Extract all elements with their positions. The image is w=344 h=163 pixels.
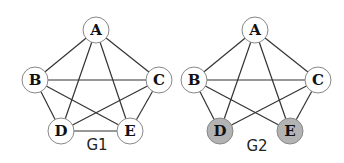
node-g2-b: B: [181, 67, 207, 93]
node-g1-b: B: [22, 67, 48, 93]
graph-diagram: ABCDE G1 ABCDE G2: [0, 0, 344, 163]
node-label: C: [312, 71, 324, 89]
node-g2-e: E: [277, 118, 303, 144]
node-label: D: [213, 122, 226, 140]
node-label: B: [188, 71, 201, 89]
node-g1-d: D: [48, 118, 74, 144]
node-label: E: [124, 122, 135, 140]
node-g2-a: A: [242, 17, 268, 43]
node-label: D: [54, 122, 67, 140]
graph-g2: ABCDE G2: [181, 17, 331, 155]
node-g2-c: C: [305, 67, 331, 93]
node-label: B: [29, 71, 42, 89]
graph-label-g1: G1: [86, 136, 107, 154]
graph-g1: ABCDE G1: [22, 17, 172, 154]
node-g1-c: C: [146, 67, 172, 93]
node-label: C: [153, 71, 165, 89]
node-g1-a: A: [83, 17, 109, 43]
node-label: E: [284, 122, 295, 140]
graph-label-g2: G2: [246, 137, 267, 155]
node-label: A: [248, 21, 261, 39]
node-label: A: [89, 21, 102, 39]
node-g2-d: D: [207, 118, 233, 144]
node-g1-e: E: [117, 118, 143, 144]
